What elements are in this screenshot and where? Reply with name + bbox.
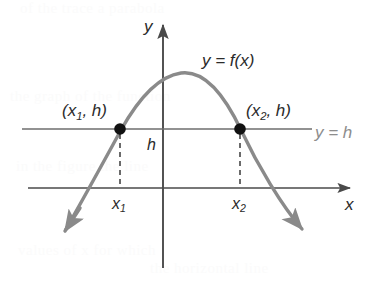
point-label-left: (x1, h) [62, 102, 107, 122]
parabola-curve [66, 73, 302, 229]
intersection-point-left [114, 123, 126, 135]
y-axis-label: y [144, 18, 153, 35]
tick-label-x2-subscript: 2 [240, 202, 246, 214]
curve-label-y-equals-fx: y = f(x) [202, 52, 254, 69]
graph-canvas [0, 0, 386, 287]
tick-label-x1-subscript: 1 [120, 202, 126, 214]
point-label-left-rest: , h) [82, 101, 107, 120]
point-label-right: (x2, h) [246, 102, 291, 122]
tick-label-x1-var: x [112, 195, 120, 212]
tick-label-x2: x2 [232, 196, 246, 214]
quadratic-function-figure: of the trace a parabola the graph of the… [0, 0, 386, 287]
tick-label-x2-var: x [232, 195, 240, 212]
tick-label-x1: x1 [112, 196, 126, 214]
x-axis-label: x [345, 196, 354, 213]
point-label-right-rest: , h) [266, 101, 291, 120]
h-value-label: h [147, 137, 156, 153]
parabola-start-arrow [65, 208, 80, 231]
point-label-left-var: x [68, 101, 77, 120]
level-line-label-y-equals-h: y = h [315, 124, 352, 141]
point-label-right-var: x [252, 101, 261, 120]
intersection-point-right [234, 123, 246, 135]
